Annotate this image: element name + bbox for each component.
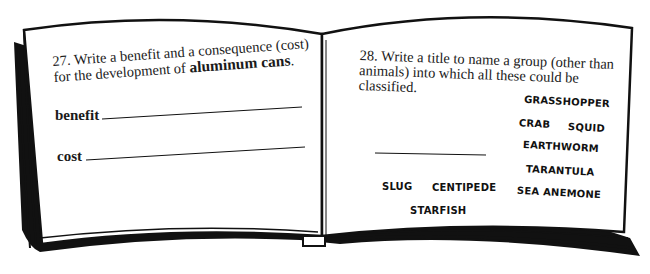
benefit-label: benefit	[55, 107, 99, 124]
question-27-number: 27.	[52, 52, 71, 69]
word-squid: SQUID	[568, 121, 605, 134]
open-book-illustration	[0, 0, 650, 274]
cost-answer-field[interactable]	[86, 144, 306, 160]
word-centipede: CENTIPEDE	[432, 182, 496, 193]
word-starfish: STARFISH	[410, 205, 466, 216]
question-28: 28. Write a title to name a group (other…	[358, 48, 619, 102]
word-slug: SLUG	[382, 181, 412, 192]
benefit-answer-field[interactable]	[102, 104, 302, 120]
group-title-answer-field[interactable]	[375, 140, 487, 156]
word-crab: CRAB	[519, 117, 551, 130]
cost-label: cost	[57, 148, 82, 165]
